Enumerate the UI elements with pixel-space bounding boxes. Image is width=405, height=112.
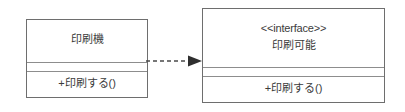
interface-name-compartment: <<interface>> 印刷可能 [203, 9, 384, 67]
operation-label: +印刷する() [265, 82, 323, 96]
class-operations-compartment: +印刷する() [27, 71, 147, 97]
class-name-label: 印刷機 [71, 33, 104, 47]
realization-arrow[interactable] [146, 52, 204, 70]
interface-attributes-compartment [203, 67, 384, 76]
interface-operations-compartment: +印刷する() [203, 76, 384, 102]
realization-arrowhead [188, 56, 202, 67]
class-name-compartment: 印刷機 [27, 20, 147, 62]
class-box-printer[interactable]: 印刷機 +印刷する() [26, 19, 148, 98]
operation-label: +印刷する() [58, 77, 116, 91]
interface-name-label: 印刷可能 [272, 39, 316, 53]
class-box-printable-interface[interactable]: <<interface>> 印刷可能 +印刷する() [202, 8, 385, 103]
uml-class-diagram: 印刷機 +印刷する() <<interface>> 印刷可能 +印刷する() [0, 0, 405, 112]
stereotype-label: <<interface>> [261, 22, 326, 36]
class-attributes-compartment [27, 62, 147, 71]
